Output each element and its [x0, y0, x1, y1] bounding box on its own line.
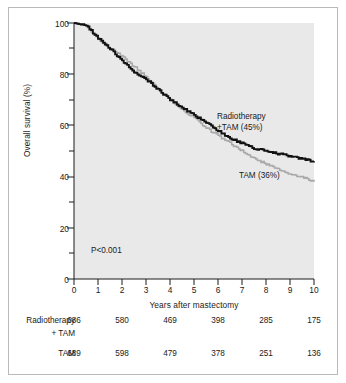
- risk-value: 469: [157, 316, 183, 325]
- p-value-annotation: P<0.001: [91, 246, 122, 255]
- risk-value: 689: [61, 349, 87, 358]
- y-axis-ticks: [67, 23, 74, 279]
- risk-value: 251: [253, 349, 279, 358]
- curve-label-tam: TAM (36%): [239, 171, 280, 182]
- survival-curve-tam: [74, 23, 314, 182]
- risk-value: 580: [109, 316, 135, 325]
- curve-label-rt-line2: +TAM (45%): [217, 123, 266, 134]
- risk-value: 175: [301, 316, 327, 325]
- table-row: Radiotherapy 686 580 469 398 285 175: [9, 316, 339, 329]
- figure-panel: Overall survival (%) 100 80 60 40 20 0 0…: [8, 7, 338, 375]
- risk-value: 479: [157, 349, 183, 358]
- table-row-continuation: + TAM: [9, 329, 339, 349]
- x-axis-ticks: [74, 279, 314, 285]
- table-row: TAM 689 598 479 378 251 136: [9, 349, 339, 361]
- risk-value: 398: [205, 316, 231, 325]
- risk-value: 686: [61, 316, 87, 325]
- numbers-at-risk-table: Radiotherapy 686 580 469 398 285 175 + T…: [9, 316, 339, 361]
- survival-curve-radiotherapy-tam: [74, 23, 314, 161]
- curve-label-rt-line1: Radiotherapy: [217, 112, 266, 123]
- risk-row-label-radiotherapy-line2: + TAM: [0, 329, 75, 338]
- risk-value: 378: [205, 349, 231, 358]
- risk-value: 598: [109, 349, 135, 358]
- risk-value: 285: [253, 316, 279, 325]
- axis-lines: [74, 23, 314, 279]
- risk-value: 136: [301, 349, 327, 358]
- curve-label-radiotherapy-tam: Radiotherapy +TAM (45%): [217, 112, 266, 133]
